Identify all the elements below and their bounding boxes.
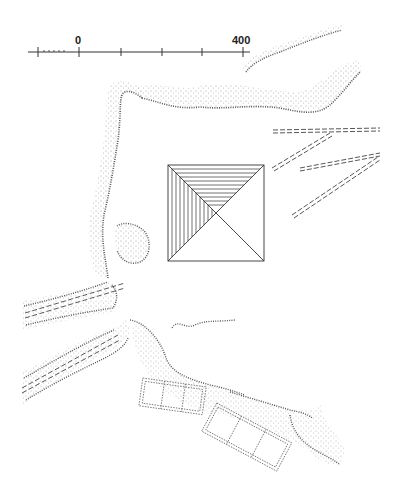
wadi-bank-lower (22, 318, 130, 405)
scale-label-zero: 0 (75, 34, 81, 46)
scale-label-400: 400 (232, 34, 250, 46)
escarpment-northeast (243, 24, 345, 72)
pyramid (168, 165, 264, 261)
knoll (115, 224, 149, 264)
scale-bar (28, 47, 250, 57)
escarpment-south (130, 320, 345, 466)
causeways-east (272, 128, 380, 218)
site-plan: 0 400 (0, 0, 403, 500)
wadi-bank-upper (22, 282, 118, 330)
